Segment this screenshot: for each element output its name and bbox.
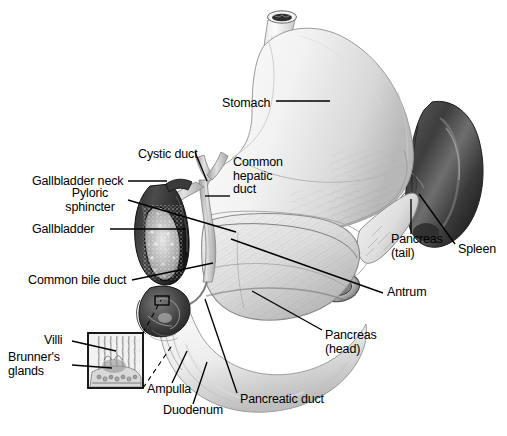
spleen-structure [406, 101, 483, 247]
label-gallbladder: Gallbladder [32, 223, 94, 237]
label-duodenum: Duodenum [163, 404, 223, 418]
label-common-hepatic-duct: Common hepatic duct [233, 156, 283, 197]
label-ampulla: Ampulla [147, 383, 191, 397]
label-pancreas-head: Pancreas (head) [325, 329, 377, 356]
label-cystic-duct: Cystic duct [138, 148, 197, 162]
label-pyloric-sphincter: Pyloric sphincter [55, 187, 125, 214]
anatomy-figure: Stomach Cystic duct Common hepatic duct … [0, 0, 507, 436]
label-antrum: Antrum [387, 286, 426, 300]
label-stomach: Stomach [222, 97, 270, 111]
label-spleen: Spleen [458, 243, 496, 257]
anatomy-illustration [0, 0, 507, 436]
label-pancreas-tail: Pancreas (tail) [391, 233, 443, 260]
label-pancreatic-duct: Pancreatic duct [240, 393, 324, 407]
pancreas-head-structure [200, 210, 370, 330]
label-brunners-glands: Brunner's glands [8, 351, 60, 378]
label-villi: Villi [44, 334, 62, 348]
label-common-bile-duct: Common bile duct [28, 274, 126, 288]
